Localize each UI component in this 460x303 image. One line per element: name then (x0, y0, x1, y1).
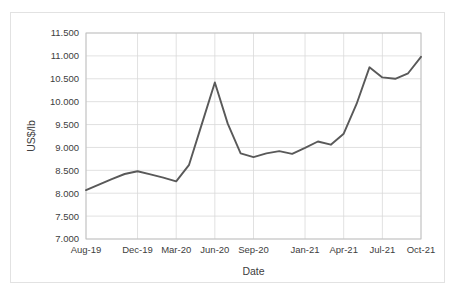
line-chart: 7.0007.5008.0008.5009.0009.50010.00010.5… (11, 13, 446, 284)
y-tick-label: 8.000 (55, 188, 79, 199)
y-tick-label: 7.500 (55, 211, 79, 222)
y-axis-tick-labels: 7.0007.5008.0008.5009.0009.50010.00010.5… (50, 27, 79, 244)
y-axis-title: US$/lb (25, 120, 37, 152)
y-tick-label: 7.000 (55, 233, 79, 244)
x-tick-label: Sep-20 (238, 244, 269, 255)
y-tick-label: 10.500 (50, 73, 79, 84)
y-tick-label: 8.500 (55, 165, 79, 176)
x-tick-label: Jan-21 (291, 244, 320, 255)
y-tick-label: 9.500 (55, 119, 79, 130)
x-axis-title: Date (242, 265, 264, 277)
y-tick-label: 9.000 (55, 142, 79, 153)
x-tick-label: Mar-20 (161, 244, 191, 255)
x-tick-label: Oct-21 (407, 244, 436, 255)
x-tick-label: Apr-21 (329, 244, 358, 255)
x-tick-label: Jun-20 (200, 244, 229, 255)
chart-frame: 7.0007.5008.0008.5009.0009.50010.00010.5… (10, 12, 445, 283)
y-tick-label: 11.500 (51, 27, 79, 38)
x-tick-label: Aug-19 (71, 244, 102, 255)
y-tick-label: 11.000 (51, 50, 79, 61)
x-tick-label: Jul-21 (369, 244, 395, 255)
x-tick-label: Dec-19 (122, 244, 153, 255)
x-axis-tick-labels: Aug-19Dec-19Mar-20Jun-20Sep-20Jan-21Apr-… (71, 244, 436, 255)
y-tick-label: 10.000 (50, 96, 79, 107)
